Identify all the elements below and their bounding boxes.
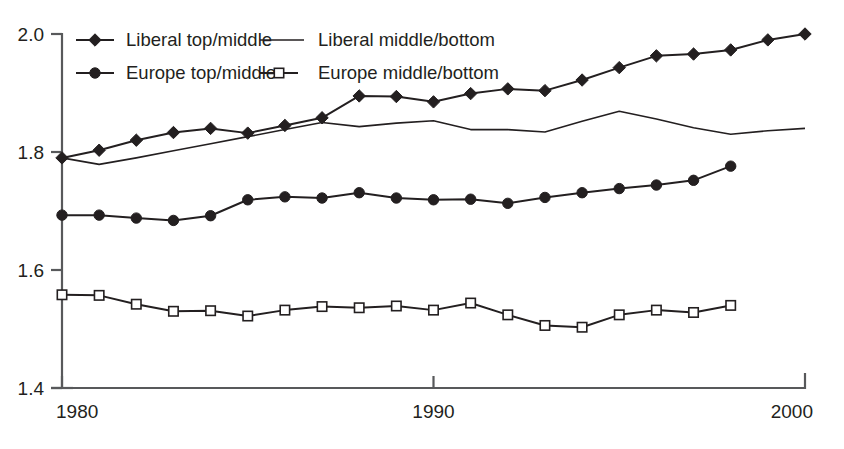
data-point-square [355,303,364,312]
data-point-square [392,301,401,310]
data-point-diamond [353,90,365,102]
data-point-diamond [167,126,179,138]
data-point-circle [94,210,104,220]
data-point-circle [391,193,401,203]
data-point-square [540,321,549,330]
data-point-diamond [539,84,551,96]
data-point-circle [205,211,215,221]
legend-item-europe-top-middle[interactable]: Europe top/middle [76,62,276,83]
data-point-square [503,310,512,319]
data-point-diamond [725,44,737,56]
data-point-square [132,300,141,309]
legend-item-liberal-top-middle[interactable]: Liberal top/middle [76,29,272,50]
x-axis-tick-label: 2000 [771,401,813,422]
data-point-circle [168,215,178,225]
legend-label: Liberal top/middle [126,29,272,50]
data-point-square [652,305,661,314]
data-point-circle [465,194,475,204]
data-point-circle [540,192,550,202]
data-point-square [577,323,586,332]
data-point-diamond [799,28,811,40]
data-point-diamond [130,134,142,146]
legend-item-liberal-middle-bottom[interactable]: Liberal middle/bottom [260,29,495,50]
data-point-diamond [427,96,439,108]
series-europe-top-middle [57,161,736,226]
data-point-circle [428,195,438,205]
y-axis-tick-label: 2.0 [18,24,44,45]
legend-label: Europe top/middle [126,62,276,83]
y-axis-tick-label: 1.6 [18,260,44,281]
data-point-square [206,306,215,315]
y-axis-tick-label: 1.4 [18,378,45,399]
legend-label: Europe middle/bottom [318,62,499,83]
legend-label: Liberal middle/bottom [318,29,495,50]
data-point-diamond [650,50,662,62]
data-point-square [94,291,103,300]
data-point-circle [131,213,141,223]
data-point-diamond [613,61,625,73]
data-point-circle [280,192,290,202]
data-point-square [466,298,475,307]
data-point-diamond [89,34,101,46]
data-point-circle [354,188,364,198]
data-point-square [429,305,438,314]
data-point-diamond [390,90,402,102]
data-point-square [317,302,326,311]
data-point-diamond [687,48,699,60]
y-axis-tick-label: 1.8 [18,142,44,163]
data-point-circle [651,180,661,190]
x-axis-tick-label: 1980 [56,401,98,422]
data-point-diamond [762,34,774,46]
data-point-diamond [464,87,476,99]
data-point-diamond [204,122,216,134]
chart-canvas: 1.41.61.82.0198019902000 Liberal top/mid… [0,0,844,449]
chart-legend: Liberal top/middleLiberal middle/bottomE… [76,29,499,83]
data-point-diamond [502,83,514,95]
data-point-circle [503,198,513,208]
legend-item-europe-middle-bottom[interactable]: Europe middle/bottom [260,62,499,83]
line-chart: 1.41.61.82.0198019902000 Liberal top/mid… [0,0,844,449]
series-europe-middle-bottom [57,290,735,332]
x-axis-tick-label: 1990 [412,401,454,422]
data-point-diamond [93,144,105,156]
data-point-circle [726,161,736,171]
data-point-square [243,311,252,320]
data-point-circle [317,193,327,203]
data-point-circle [90,68,100,78]
data-point-square [169,307,178,316]
data-point-circle [577,188,587,198]
data-point-circle [243,195,253,205]
data-point-circle [614,183,624,193]
data-point-square [280,305,289,314]
data-point-square [726,301,735,310]
data-point-square [57,290,66,299]
data-point-square [689,308,698,317]
data-point-square [274,68,283,77]
data-point-diamond [576,74,588,86]
data-point-circle [57,210,67,220]
data-point-circle [688,175,698,185]
data-point-square [615,310,624,319]
axis-lines [62,34,805,388]
